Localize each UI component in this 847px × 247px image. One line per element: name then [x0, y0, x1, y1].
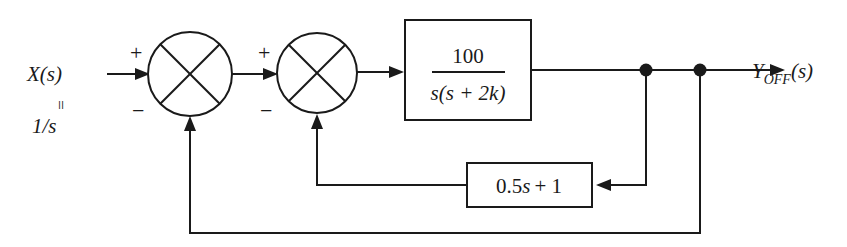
sum2-minus-sign: −: [260, 98, 272, 123]
feedback-block-label: 0.5s+ 1: [496, 174, 562, 198]
svg-text:=: =: [51, 100, 70, 110]
arrowhead-into-feedback-block: [596, 179, 611, 191]
output-label-yoff: YOFF(s): [752, 59, 813, 87]
input-value-label: 1/s: [32, 114, 57, 138]
control-system-block-diagram: X(s) = 1/s + − + −: [0, 0, 847, 247]
feedback-variable: s: [522, 174, 530, 198]
feedback-coefficient: 0.5: [496, 174, 522, 198]
feedback-transfer-function-block: 0.5s+ 1: [467, 163, 592, 207]
wire-inner-loop-to-sum2: [317, 126, 467, 185]
wire-inner-loop-from-tap: [604, 70, 646, 185]
output-subscript: OFF: [764, 72, 792, 87]
output-argument: (s): [791, 59, 813, 83]
arrowhead-inner-loop-into-sum2: [311, 114, 323, 129]
plant-numerator: 100: [452, 44, 484, 68]
summing-junction-2: [277, 33, 357, 113]
summing-junction-1: [148, 32, 232, 116]
sum1-minus-sign: −: [132, 98, 144, 123]
sum2-plus-sign: +: [258, 40, 270, 65]
feedback-constant: + 1: [534, 174, 562, 198]
block-diagram-canvas: X(s) = 1/s + − + −: [0, 0, 847, 247]
plant-transfer-function-block: 100 s(s + 2k): [405, 20, 531, 120]
input-label-xs: X(s): [26, 62, 62, 86]
arrowhead-outer-loop-into-sum1: [184, 116, 196, 131]
arrowhead-sum2-to-plant: [389, 66, 404, 78]
arrowhead-sum1-to-sum2: [263, 68, 278, 80]
input-equals-symbol: =: [51, 100, 70, 110]
svg-text:YOFF(s): YOFF(s): [752, 59, 813, 87]
plant-denominator: s(s + 2k): [431, 81, 506, 105]
sum1-plus-sign: +: [130, 40, 142, 65]
